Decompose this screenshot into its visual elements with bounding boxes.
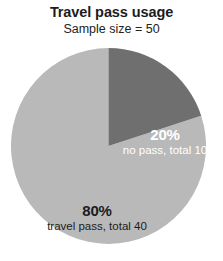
pie-chart-svg bbox=[11, 48, 206, 244]
chart-subtitle: Sample size = 50 bbox=[0, 20, 223, 36]
chart-header: Travel pass usage Sample size = 50 bbox=[0, 0, 223, 36]
chart-title: Travel pass usage bbox=[0, 0, 223, 20]
pie-chart: 20% no pass, total 10 80% travel pass, t… bbox=[11, 48, 206, 244]
